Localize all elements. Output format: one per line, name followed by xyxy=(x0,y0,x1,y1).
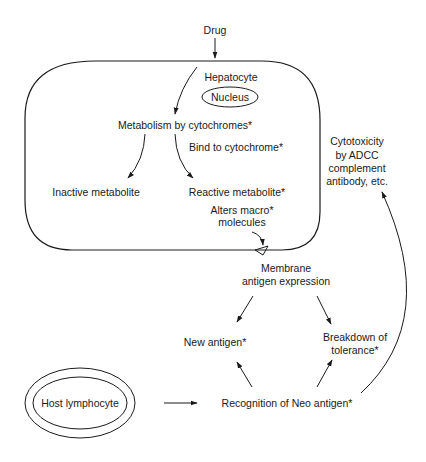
node-cytotoxicity: Cytotoxicity xyxy=(330,135,384,147)
arrow-entry-to-metabolism xyxy=(175,67,197,114)
arrow-recognition-to-breakdown xyxy=(317,360,332,387)
node-new-antigen: New antigen* xyxy=(184,336,246,348)
node-host-lymphocyte: Host lymphocyte xyxy=(41,397,119,409)
node-by-adcc: by ADCC xyxy=(335,149,379,161)
node-reactive-metabolite: Reactive metabolite* xyxy=(189,186,285,198)
label-nucleus: Nucleus xyxy=(211,91,249,103)
label-alters-macro: Alters macro* xyxy=(210,204,273,216)
drug-hepatotoxicity-diagram: Drug Hepatocyte Nucleus Metabolism by cy… xyxy=(0,0,426,462)
node-inactive-metabolite: Inactive metabolite xyxy=(52,186,140,198)
node-membrane: Membrane xyxy=(261,262,311,274)
node-antigen-expression: antigen expression xyxy=(242,275,330,287)
hepatocyte-cell-boundary xyxy=(25,61,320,250)
label-hepatocyte: Hepatocyte xyxy=(204,71,257,83)
arrow-membrane-to-new-antigen xyxy=(237,296,253,322)
arrow-recognition-to-new-antigen xyxy=(237,362,252,387)
arrow-to-inactive xyxy=(128,134,145,178)
node-tolerance: tolerance* xyxy=(331,344,378,356)
node-drug: Drug xyxy=(204,24,227,36)
arrow-membrane-to-breakdown xyxy=(317,296,331,324)
arrow-alters-to-membrane xyxy=(252,232,263,245)
label-molecules: molecules xyxy=(218,216,265,228)
label-bind-to-cytochrome: Bind to cytochrome* xyxy=(189,141,283,153)
node-recognition: Recognition of Neo antigen* xyxy=(222,397,353,409)
node-breakdown-of: Breakdown of xyxy=(323,331,387,343)
node-metabolism: Metabolism by cytochromes* xyxy=(118,119,252,131)
node-antibody-etc: antibody, etc. xyxy=(326,175,388,187)
arrow-recognition-to-cytotoxicity xyxy=(361,192,407,393)
node-complement: complement xyxy=(328,162,385,174)
